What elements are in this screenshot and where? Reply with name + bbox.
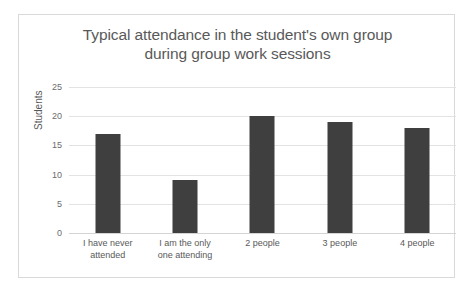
y-axis-tick-label: 20 xyxy=(52,111,62,121)
bar-slot xyxy=(224,87,301,233)
chart-title: Typical attendance in the student's own … xyxy=(31,25,444,63)
bar-series xyxy=(69,87,456,233)
bar[interactable] xyxy=(327,122,352,233)
x-axis-category-label-line: I am the only xyxy=(146,237,223,249)
x-axis-labels: I have neverattendedI am the onlyone att… xyxy=(69,237,456,277)
x-axis-category-label: I have neverattended xyxy=(69,237,146,261)
x-axis-category-label-line: 2 people xyxy=(224,237,301,249)
y-axis-tick-label: 10 xyxy=(52,170,62,180)
x-axis-category-label: 3 people xyxy=(301,237,378,249)
chart-container: Typical attendance in the student's own … xyxy=(18,14,455,278)
bar-slot xyxy=(146,87,223,233)
x-axis-category-label: 2 people xyxy=(224,237,301,249)
x-axis-category-label-line: I have never xyxy=(69,237,146,249)
bar[interactable] xyxy=(173,180,198,233)
bar[interactable] xyxy=(405,128,430,233)
chart-title-line-1: Typical attendance in the student's own … xyxy=(31,25,444,44)
y-axis-label: Students xyxy=(33,91,44,130)
bar[interactable] xyxy=(250,116,275,233)
y-axis-tick-label: 15 xyxy=(52,140,62,150)
y-axis-tick-label: 25 xyxy=(52,82,62,92)
x-axis-category-label: 4 people xyxy=(379,237,456,249)
gridline xyxy=(69,233,456,234)
x-axis-category-label-line: one attending xyxy=(146,249,223,261)
bar-slot xyxy=(69,87,146,233)
x-axis-category-label-line: attended xyxy=(69,249,146,261)
plot-area: 0510152025 xyxy=(69,87,456,233)
bar[interactable] xyxy=(95,134,120,233)
chart-title-line-2: during group work sessions xyxy=(31,44,444,63)
y-axis-tick-label: 0 xyxy=(57,228,62,238)
x-axis-category-label-line: 3 people xyxy=(301,237,378,249)
y-axis-tick-label: 5 xyxy=(57,199,62,209)
x-axis-category-label: I am the onlyone attending xyxy=(146,237,223,261)
bar-slot xyxy=(301,87,378,233)
bar-slot xyxy=(379,87,456,233)
x-axis-category-label-line: 4 people xyxy=(379,237,456,249)
